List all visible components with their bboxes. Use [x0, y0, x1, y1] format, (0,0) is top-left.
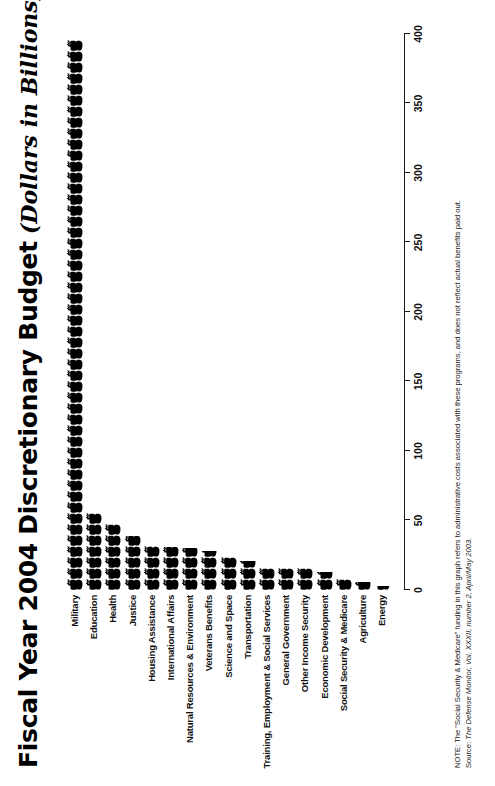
- bar-row: Military: [66, 35, 83, 590]
- bar-rows: MilitaryEducationHealthJusticeHousing As…: [62, 0, 392, 786]
- bar[interactable]: [124, 536, 141, 590]
- axis-tick-label: 250: [412, 234, 424, 252]
- bar-category-label: International Affairs: [165, 595, 176, 680]
- bar[interactable]: [85, 511, 102, 590]
- bar[interactable]: [66, 35, 83, 590]
- bar-row: Transportation: [239, 561, 256, 590]
- bar-row: Other Income Security: [296, 568, 313, 590]
- plot-area: MilitaryEducationHealthJusticeHousing As…: [62, 0, 392, 786]
- axis-tick: [404, 33, 410, 34]
- bar-row: Science and Space: [220, 557, 237, 590]
- source-text: The Defense Monitor, Vol. XXXII, number …: [464, 538, 473, 740]
- bar[interactable]: [239, 561, 256, 590]
- axis-tick-label: 100: [412, 442, 424, 460]
- bar-row: Justice: [124, 536, 141, 590]
- axis-tick: [404, 172, 410, 173]
- axis-tick: [404, 589, 410, 590]
- bar-row: Housing Assistance: [143, 546, 160, 590]
- bar[interactable]: [316, 572, 333, 590]
- chart-figure: Fiscal Year 2004 Discretionary Budget(Do…: [0, 0, 495, 786]
- bar-row: Education: [85, 511, 102, 590]
- bar-row: Social Security & Medicare: [335, 575, 352, 590]
- axis-tick-label: 0: [412, 587, 424, 593]
- bar-category-label: Science and Space: [223, 595, 234, 678]
- chart-title-subtitle: (Dollars in Billions): [16, 0, 42, 234]
- chart-title: Fiscal Year 2004 Discretionary Budget(Do…: [14, 0, 43, 768]
- axis-tick-label: 400: [412, 25, 424, 43]
- value-axis: 050100150200250300350400: [404, 0, 450, 786]
- bar-category-label: Natural Resources & Environment: [184, 595, 195, 743]
- bar-category-label: Education: [88, 595, 99, 639]
- bar-row: Veterans Benefits: [200, 551, 217, 590]
- axis-tick: [404, 311, 410, 312]
- axis-tick: [404, 450, 410, 451]
- axis-tick-label: 150: [412, 373, 424, 391]
- axis-tick-label: 350: [412, 95, 424, 113]
- bar-category-label: Housing Assistance: [146, 595, 157, 682]
- bar-category-label: Health: [107, 595, 118, 623]
- chart-canvas: Fiscal Year 2004 Discretionary Budget(Do…: [0, 0, 495, 786]
- bar[interactable]: [373, 586, 390, 590]
- bar-row: Natural Resources & Environment: [181, 548, 198, 590]
- source-label: Source:: [464, 740, 473, 768]
- bar-category-label: Justice: [127, 595, 138, 626]
- bar-row: Agriculture: [354, 582, 371, 590]
- bar-category-label: Agriculture: [357, 595, 368, 643]
- axis-tick-label: 50: [412, 515, 424, 527]
- source-line: Source: The Defense Monitor, Vol. XXXII,…: [463, 8, 474, 768]
- bar-row: General Government: [277, 566, 294, 590]
- bar[interactable]: [354, 582, 371, 590]
- axis-tick-label: 200: [412, 303, 424, 321]
- bar-category-label: Transportation: [242, 595, 253, 659]
- axis-tick: [404, 102, 410, 103]
- bar[interactable]: [335, 575, 352, 590]
- bar-category-label: Other Income Security: [299, 595, 310, 692]
- footnotes: NOTE: The "Social Security & Medicare" f…: [452, 8, 474, 768]
- bar-category-label: Social Security & Medicare: [338, 595, 349, 711]
- bar-category-label: Veterans Benefits: [203, 595, 214, 671]
- axis-tick: [404, 241, 410, 242]
- bar[interactable]: [277, 566, 294, 590]
- bar-category-label: General Government: [280, 595, 291, 685]
- bar[interactable]: [220, 557, 237, 590]
- axis-tick: [404, 380, 410, 381]
- bar[interactable]: [143, 546, 160, 590]
- bar-category-label: Military: [69, 595, 80, 627]
- bar-row: Economic Development: [316, 572, 333, 590]
- note-text: NOTE: The "Social Security & Medicare" f…: [452, 8, 463, 768]
- bar-row: Energy: [373, 586, 390, 590]
- bar-row: International Affairs: [162, 547, 179, 590]
- axis-tick: [404, 519, 410, 520]
- chart-title-main: Fiscal Year 2004 Discretionary Budget: [14, 241, 43, 768]
- bar-row: Health: [104, 522, 121, 590]
- bar-row: Training, Employment & Social Services: [258, 564, 275, 590]
- bar-category-label: Economic Development: [319, 595, 330, 699]
- bar[interactable]: [181, 548, 198, 590]
- bar-category-label: Energy: [376, 595, 387, 626]
- bar[interactable]: [104, 522, 121, 590]
- bar[interactable]: [162, 547, 179, 590]
- axis-tick-label: 300: [412, 164, 424, 182]
- bar[interactable]: [200, 551, 217, 590]
- bar[interactable]: [296, 568, 313, 590]
- bar[interactable]: [258, 564, 275, 590]
- bar-category-label: Training, Employment & Social Services: [261, 595, 272, 769]
